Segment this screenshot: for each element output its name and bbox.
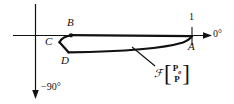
imag-axis-arrowhead — [32, 90, 39, 99]
real-axis-label: 0° — [213, 29, 222, 39]
locus-lower-branch — [69, 36, 193, 52]
imag-axis — [32, 4, 39, 99]
pressure-ratio-fraction: Po P — [172, 64, 183, 84]
unity-tick-label: 1 — [189, 12, 194, 22]
point-label-d: D — [61, 55, 69, 66]
point-label-b: B — [67, 17, 74, 28]
imag-axis-label: −90° — [41, 82, 61, 92]
locus-segment-cd — [60, 42, 69, 52]
point-marker-b — [69, 33, 73, 37]
figure-canvas: B C D A 1 0° −90° ℱ [ Po P ] — [0, 0, 234, 104]
polar-plot-svg — [0, 0, 234, 104]
point-label-c: C — [45, 36, 52, 47]
locus-upper-branch — [71, 35, 192, 36]
fraction-denominator: P — [174, 75, 180, 84]
real-axis-arrowhead — [203, 32, 212, 39]
script-f-operator: ℱ — [154, 68, 163, 79]
bracket-right-icon: ] — [182, 65, 190, 83]
transfer-function-annotation: ℱ [ Po P ] — [154, 64, 190, 84]
bracket-left-icon: [ — [164, 65, 172, 83]
point-label-a: A — [188, 41, 195, 52]
